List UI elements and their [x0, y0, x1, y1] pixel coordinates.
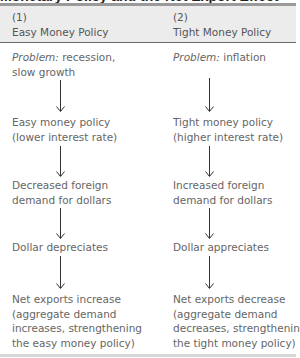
bottom-rule	[0, 354, 296, 357]
flow-step: Increased foreign demand for dollars	[173, 178, 272, 207]
step-line: demand for dollars	[12, 194, 111, 206]
step-line: Dollar depreciates	[12, 241, 108, 253]
flow-step-outcome: Net exports decrease (aggregate demand d…	[173, 292, 300, 350]
column-number: (2)	[173, 10, 271, 25]
step-line: (aggregate demand	[173, 308, 278, 320]
problem-statement: Problem: recession, slow growth	[12, 50, 115, 79]
problem-label: Problem:	[12, 51, 59, 63]
step-line: Net exports increase	[12, 293, 121, 305]
down-arrow-icon	[205, 78, 214, 112]
flow-step: Tight money policy (higher interest rate…	[173, 115, 283, 144]
flow-step: Easy money policy (lower interest rate)	[12, 115, 117, 144]
problem-statement: Problem: inflation	[173, 50, 266, 65]
step-line: the tight money policy)	[173, 337, 296, 349]
column-header-easy: (1) Easy Money Policy	[12, 10, 108, 40]
down-arrow-icon	[56, 146, 65, 177]
down-arrow-icon	[205, 146, 214, 177]
step-line: the easy money policy)	[12, 337, 135, 349]
flow-step: Dollar appreciates	[173, 240, 269, 255]
column-heading: Easy Money Policy	[12, 26, 108, 38]
down-arrow-icon	[56, 256, 65, 289]
column-header-tight: (2) Tight Money Policy	[173, 10, 271, 40]
header-rule	[0, 42, 296, 43]
problem-label: Problem:	[173, 51, 220, 63]
problem-text: inflation	[220, 51, 266, 63]
column-heading: Tight Money Policy	[173, 26, 271, 38]
step-line: Increased foreign	[173, 179, 264, 191]
step-line: Easy money policy	[12, 116, 110, 128]
down-arrow-icon	[205, 256, 214, 289]
flow-step: Decreased foreign demand for dollars	[12, 178, 111, 207]
step-line: (aggregate demand	[12, 308, 117, 320]
step-line: decreases, strengthening	[173, 322, 300, 334]
step-line: Net exports decrease	[173, 293, 285, 305]
problem-text-line2: slow growth	[12, 66, 75, 78]
column-number: (1)	[12, 10, 108, 25]
step-line: (higher interest rate)	[173, 131, 283, 143]
down-arrow-icon	[56, 208, 65, 239]
step-line: demand for dollars	[173, 194, 272, 206]
down-arrow-icon	[56, 80, 65, 112]
problem-text: recession,	[59, 51, 115, 63]
step-line: (lower interest rate)	[12, 131, 117, 143]
flow-step-outcome: Net exports increase (aggregate demand i…	[12, 292, 142, 350]
step-line: Tight money policy	[173, 116, 273, 128]
down-arrow-icon	[205, 208, 214, 239]
step-line: Decreased foreign	[12, 179, 108, 191]
step-line: increases, strengthening	[12, 322, 142, 334]
flow-step: Dollar depreciates	[12, 240, 108, 255]
step-line: Dollar appreciates	[173, 241, 269, 253]
